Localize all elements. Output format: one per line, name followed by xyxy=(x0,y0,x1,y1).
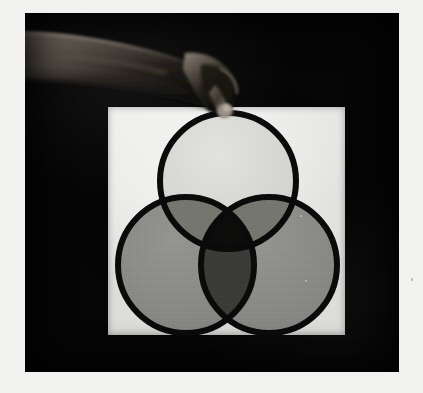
photographic-print xyxy=(25,13,399,372)
photograph-scene xyxy=(0,0,423,393)
venn-diagram xyxy=(25,13,399,372)
